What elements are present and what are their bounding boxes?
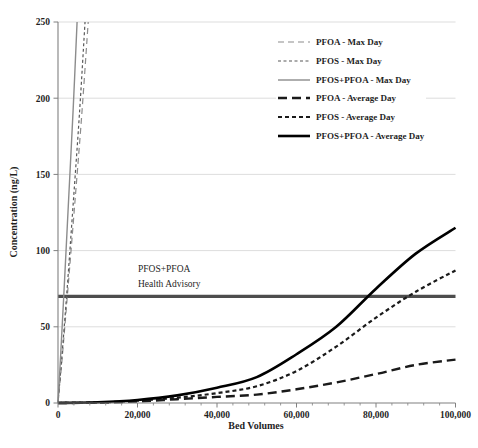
y-tick-label: 100 bbox=[36, 246, 51, 256]
legend: PFOA - Max DayPFOS - Max DayPFOS+PFOA - … bbox=[276, 32, 426, 146]
legend-label: PFOA - Average Day bbox=[316, 93, 396, 103]
series-pfos-pfoa-average-day bbox=[58, 228, 456, 403]
legend-line-sample bbox=[278, 36, 310, 48]
legend-label: PFOS+PFOA - Average Day bbox=[316, 131, 424, 141]
legend-line-sample bbox=[278, 130, 310, 142]
legend-item: PFOA - Average Day bbox=[278, 89, 424, 108]
x-tick-label: 100,000 bbox=[440, 410, 471, 420]
y-tick-label: 50 bbox=[41, 322, 51, 332]
series-pfos-average-day bbox=[58, 270, 456, 403]
y-tick-label: 0 bbox=[45, 398, 50, 408]
y-tick-label: 200 bbox=[36, 94, 51, 104]
y-tick-label: 250 bbox=[36, 17, 51, 27]
x-tick-label: 20,000 bbox=[124, 410, 150, 420]
legend-line-sample bbox=[278, 74, 310, 86]
series-pfoa-average-day bbox=[58, 360, 456, 403]
legend-item: PFOA - Max Day bbox=[278, 33, 424, 52]
legend-line-sample bbox=[278, 111, 310, 123]
legend-item: PFOS - Average Day bbox=[278, 108, 424, 127]
x-tick-label: 80,000 bbox=[363, 410, 389, 420]
x-tick-label: 60,000 bbox=[283, 410, 309, 420]
legend-label: PFOS+PFOA - Max Day bbox=[316, 75, 411, 85]
legend-item: PFOS - Max Day bbox=[278, 52, 424, 71]
legend-label: PFOS - Max Day bbox=[316, 56, 382, 66]
health-advisory-label-line2: Health Advisory bbox=[138, 279, 201, 289]
x-tick-label: 40,000 bbox=[204, 410, 230, 420]
legend-item: PFOS+PFOA - Average Day bbox=[278, 126, 424, 145]
legend-label: PFOA - Max Day bbox=[316, 37, 383, 47]
series-pfos-max-day bbox=[58, 22, 85, 403]
y-axis-title: Concentration (ng/L) bbox=[8, 167, 20, 258]
y-tick-label: 150 bbox=[36, 170, 51, 180]
x-tick-label: 0 bbox=[56, 410, 61, 420]
health-advisory-label-line1: PFOS+PFOA bbox=[138, 264, 190, 274]
legend-item: PFOS+PFOA - Max Day bbox=[278, 70, 424, 89]
legend-line-sample bbox=[278, 92, 310, 104]
legend-label: PFOS - Average Day bbox=[316, 112, 395, 122]
breakthrough-chart: 020,00040,00060,00080,000100,00005010015… bbox=[0, 0, 478, 448]
x-axis-title: Bed Volumes bbox=[228, 420, 283, 431]
legend-line-sample bbox=[278, 55, 310, 67]
